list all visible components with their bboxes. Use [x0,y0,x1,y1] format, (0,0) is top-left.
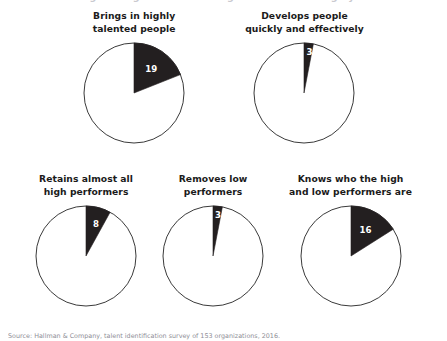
pie-panel-title: Brings in highly talented people [93,10,176,35]
pie-panel-retains-high-performers: Retains almost all high performers 8 [35,173,137,307]
pie-row-bottom: Retains almost all high performers 8 Rem… [0,173,447,307]
pie-svg [162,205,264,307]
pie-chart-figure: Percentage of organizations rating thems… [0,0,447,341]
source-note: Source: Hallman & Company, talent identi… [8,332,440,340]
pie-graphic: 16 [300,205,402,307]
pie-panel-title: Retains almost all high performers [39,173,133,198]
pie-panel-knows-high-low-performers: Knows who the high and low performers ar… [289,173,412,307]
pie-graphic: 8 [35,205,137,307]
pie-svg [35,205,137,307]
pie-svg [300,205,402,307]
pie-panel-develops-people: Develops people quickly and effectively … [245,10,364,144]
pie-graphic: 3 [253,42,355,144]
pie-svg [253,42,355,144]
pie-graphic: 19 [83,42,185,144]
pie-panel-removes-low-performers: Removes low performers 3 [162,173,264,307]
clipped-figure-header: Percentage of organizations rating thems… [0,0,447,3]
pie-panel-title: Removes low performers [179,173,248,198]
pie-panel-brings-in-talented-people: Brings in highly talented people 19 [83,10,185,144]
pie-panel-title: Develops people quickly and effectively [245,10,364,35]
pie-panel-title: Knows who the high and low performers ar… [289,173,412,198]
pie-graphic: 3 [162,205,264,307]
pie-svg [83,42,185,144]
pie-row-top: Brings in highly talented people 19 Deve… [0,10,447,144]
